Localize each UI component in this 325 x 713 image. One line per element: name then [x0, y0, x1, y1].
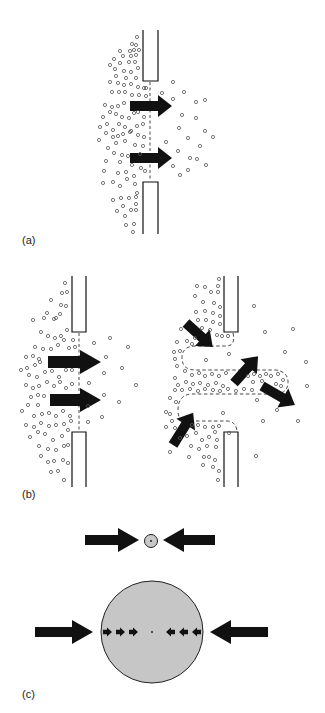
panel-b-right: [164, 276, 309, 487]
droplet-center-dot: [151, 631, 153, 633]
upper-wall-b-left: [72, 276, 86, 332]
arrow-right-icon: [130, 147, 172, 169]
panel-a: [97, 30, 214, 234]
lower-wall-b-right: [224, 432, 238, 487]
particle-cloud-a: [97, 35, 147, 233]
upper-wall-a: [143, 30, 158, 81]
particle-spray-b-left: [86, 336, 137, 423]
arrow-right-icon: [35, 620, 93, 644]
arrow-left-icon: [210, 620, 268, 644]
upper-wall-b-right: [224, 276, 238, 332]
lower-wall-a: [143, 182, 158, 234]
diagram-canvas: [0, 0, 325, 713]
panel-c: [35, 528, 268, 683]
particle-cloud-b-left: [19, 281, 76, 481]
arrow-right-icon: [48, 350, 101, 374]
arrow-right-icon: [130, 95, 172, 117]
arrow-right-icon: [50, 388, 101, 412]
arrow-up-right-icon: [226, 349, 266, 390]
arrow-right-icon: [85, 528, 139, 552]
droplet-center-dot: [150, 540, 152, 542]
arrow-left-icon: [163, 528, 215, 552]
panel-b-left: [19, 276, 137, 487]
arrow-up-right-icon: [164, 407, 203, 451]
lower-wall-b-left: [72, 432, 86, 487]
particle-spray-a: [160, 80, 214, 176]
